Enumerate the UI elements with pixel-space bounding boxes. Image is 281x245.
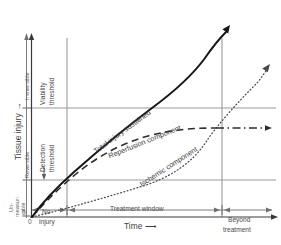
- viability-threshold-label-line1: Viability: [40, 82, 47, 105]
- x-region-label-treatment-window: Treatment window: [110, 206, 164, 213]
- detection-threshold-label-line1: Detection: [40, 144, 47, 172]
- x-origin-label: 0: [28, 219, 32, 226]
- curve-ischemic-arrowhead: [262, 64, 270, 72]
- curve-reperfusion-arrowhead: [265, 125, 272, 130]
- x-axis-arrowhead: [271, 214, 278, 219]
- x-span-arrow-right-treatment: [214, 208, 220, 213]
- curve-reperfusion-component: [32, 128, 216, 217]
- x-region-label-no-injury-line2: injury: [39, 219, 55, 226]
- x-span-arrow-left-beyond: [224, 208, 230, 213]
- y-axis-arrowhead: [29, 33, 34, 40]
- y-region-label-reversible: Reversible: [25, 152, 31, 178]
- detection-threshold-pointer-arrowhead: [42, 174, 46, 180]
- y-origin-label: 0: [22, 210, 26, 217]
- x-span-arrow-right-beyond: [266, 208, 272, 213]
- y-axis-title: Tissue injury →: [14, 103, 23, 160]
- x-region-label-beyond-line2: treatment: [223, 227, 251, 234]
- tissue-injury-time-chart: Tissue injury → Irreversible Reversible …: [0, 0, 281, 245]
- x-region-label-no-injury-line1: No: [42, 209, 50, 216]
- viability-threshold-label-line2: threshold: [49, 78, 56, 105]
- detection-threshold-label-line2: threshold: [49, 145, 56, 172]
- x-axis-title: Time ⟶: [124, 222, 156, 231]
- x-span-arrow-left-treatment: [69, 208, 75, 213]
- x-region-label-beyond-line1: Beyond: [228, 217, 250, 224]
- y-region-scalebar-arrowhead: [24, 33, 29, 40]
- y-region-label-irreversible: Irreversible: [25, 72, 31, 100]
